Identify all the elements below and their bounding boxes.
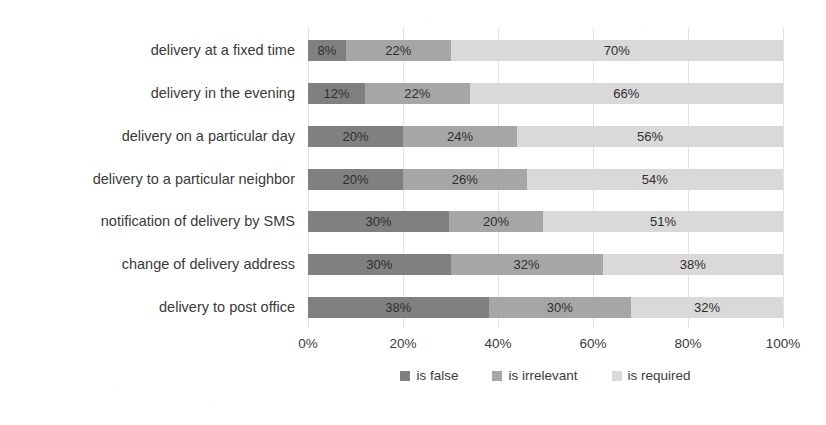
legend-label: is required [628,368,691,383]
category-label: delivery to a particular neighbor [0,169,295,190]
bar-segment-is-false: 30% [308,254,451,275]
category-label: delivery on a particular day [0,126,295,147]
x-axis-tick-label: 60% [579,336,606,351]
stacked-bar-chart: delivery at a fixed timedelivery in the … [0,0,826,425]
x-axis-tick-label: 40% [484,336,511,351]
legend-item[interactable]: is required [612,368,691,383]
bar-value-label: 30% [366,215,392,228]
bar-value-label: 66% [613,87,639,100]
bar-segment-is-false: 20% [308,169,403,190]
bar-value-label: 20% [483,215,509,228]
bar-row: 20%26%54% [308,169,783,190]
bar-value-label: 20% [342,130,368,143]
bar-segment-is-required: 54% [527,169,784,190]
bar-segment-is-irrelevant: 24% [403,126,517,147]
bar-segment-is-required: 51% [543,211,783,232]
bar-value-label: 30% [547,301,573,314]
bar-value-label: 12% [323,87,349,100]
bar-segment-is-irrelevant: 26% [403,169,527,190]
bar-segment-is-required: 66% [470,83,784,104]
bar-segment-is-irrelevant: 30% [489,297,632,318]
category-label: delivery in the evening [0,83,295,104]
x-axis-tick-label: 80% [674,336,701,351]
legend-swatch-icon [492,371,502,381]
category-label: delivery to post office [0,297,295,318]
bar-row: 38%30%32% [308,297,783,318]
bar-segment-is-required: 38% [603,254,784,275]
chart-legend: is falseis irrelevantis required [308,368,783,383]
bar-row: 12%22%66% [308,83,783,104]
bar-value-label: 22% [404,87,430,100]
bar-value-label: 20% [342,173,368,186]
bar-row: 20%24%56% [308,126,783,147]
bar-row: 30%20%51% [308,211,783,232]
bar-value-label: 56% [637,130,663,143]
bar-value-label: 30% [366,258,392,271]
bar-segment-is-false: 38% [308,297,489,318]
x-axis: 0%20%40%60%80%100% [308,330,783,354]
bar-value-label: 32% [513,258,539,271]
legend-swatch-icon [612,371,622,381]
bar-row: 8%22%70% [308,40,783,61]
bar-value-label: 24% [447,130,473,143]
bar-segment-is-false: 20% [308,126,403,147]
bar-segment-is-irrelevant: 32% [451,254,603,275]
x-axis-tick-label: 100% [766,336,801,351]
legend-swatch-icon [400,371,410,381]
legend-label: is false [416,368,458,383]
bar-segment-is-false: 30% [308,211,449,232]
bar-segment-is-false: 8% [308,40,346,61]
legend-item[interactable]: is irrelevant [492,368,577,383]
legend-label: is irrelevant [508,368,577,383]
bar-segment-is-irrelevant: 22% [346,40,451,61]
bar-value-label: 38% [680,258,706,271]
legend-item[interactable]: is false [400,368,458,383]
x-axis-tick-label: 0% [298,336,318,351]
bar-segment-is-required: 56% [517,126,783,147]
bar-value-label: 32% [694,301,720,314]
bar-segment-is-required: 70% [451,40,784,61]
category-label: change of delivery address [0,254,295,275]
category-axis: delivery at a fixed timedelivery in the … [0,28,295,328]
bar-value-label: 38% [385,301,411,314]
bar-segment-is-irrelevant: 22% [365,83,470,104]
bar-segment-is-false: 12% [308,83,365,104]
plot-area: 8%22%70%12%22%66%20%24%56%20%26%54%30%20… [308,28,783,328]
bar-value-label: 54% [642,173,668,186]
bar-segment-is-irrelevant: 20% [449,211,543,232]
bar-value-label: 70% [604,44,630,57]
x-axis-tick-label: 20% [389,336,416,351]
bar-row: 30%32%38% [308,254,783,275]
bar-value-label: 8% [318,44,337,57]
bar-value-label: 26% [452,173,478,186]
category-label: notification of delivery by SMS [0,211,295,232]
bar-segment-is-required: 32% [631,297,783,318]
gridline-100 [783,28,784,328]
bar-value-label: 51% [650,215,676,228]
category-label: delivery at a fixed time [0,40,295,61]
bar-value-label: 22% [385,44,411,57]
bar-rows: 8%22%70%12%22%66%20%24%56%20%26%54%30%20… [308,28,783,328]
